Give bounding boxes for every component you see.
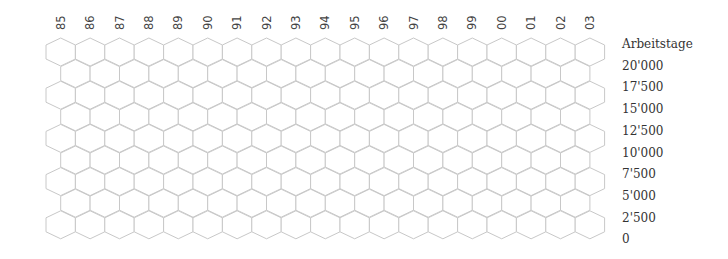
- x-tick-label: 85: [54, 15, 68, 30]
- x-tick-label: 88: [142, 15, 156, 30]
- x-tick-label: 02: [554, 15, 568, 30]
- x-tick-label: 99: [465, 15, 479, 30]
- x-tick-label: 93: [289, 15, 303, 30]
- x-tick-label: 96: [377, 15, 391, 30]
- y-tick-label: 20'000: [622, 59, 663, 73]
- y-tick-label: 7'500: [622, 167, 656, 181]
- x-tick-label: 98: [436, 15, 450, 30]
- y-axis-title: Arbeitstage: [621, 37, 693, 51]
- x-tick-label: 01: [524, 15, 538, 30]
- hexagon-grid: [46, 38, 605, 239]
- x-tick-label: 89: [171, 15, 185, 30]
- x-tick-label: 92: [260, 15, 274, 30]
- x-tick-label: 87: [113, 15, 127, 30]
- x-tick-label: 90: [201, 15, 215, 30]
- y-axis-labels: Arbeitstage 20'00017'50015'00012'50010'0…: [621, 37, 693, 246]
- y-tick-label: 10'000: [622, 146, 663, 160]
- x-axis-labels: 85868788899091929394959697989900010203: [54, 15, 597, 30]
- x-tick-label: 00: [495, 15, 509, 30]
- x-tick-label: 95: [348, 15, 362, 30]
- y-tick-label: 12'500: [622, 124, 663, 138]
- y-tick-label: 17'500: [622, 80, 663, 94]
- x-tick-label: 97: [407, 15, 421, 30]
- x-tick-label: 86: [83, 15, 97, 30]
- y-tick-label: 0: [622, 232, 630, 246]
- y-tick-label: 5'000: [622, 189, 656, 203]
- y-tick-label: 2'500: [622, 211, 656, 225]
- y-tick-label: 15'000: [622, 102, 663, 116]
- x-tick-label: 94: [318, 15, 332, 30]
- hex-grid-chart: 85868788899091929394959697989900010203 A…: [0, 0, 728, 259]
- x-tick-label: 91: [230, 15, 244, 30]
- x-tick-label: 03: [583, 15, 597, 30]
